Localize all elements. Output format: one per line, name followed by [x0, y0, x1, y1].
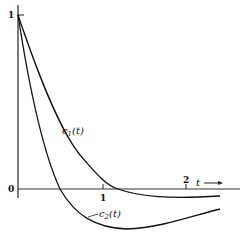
chart: 1 0 1 2 t c1(t) c2(t) — [0, 0, 246, 240]
curve-label-c1: c1(t) — [62, 125, 84, 138]
c2-leader-line — [88, 214, 98, 217]
x-axis-label: t — [196, 177, 201, 188]
x-tick-label-1: 1 — [100, 193, 106, 203]
y-tick-label-0: 0 — [8, 184, 14, 194]
arrow-right-icon — [204, 181, 223, 185]
y-tick-label-1: 1 — [8, 10, 14, 20]
curve-label-c2: c2(t) — [99, 208, 121, 221]
x-tick-label-2: 2 — [183, 175, 189, 185]
curve-c1 — [18, 15, 220, 197]
